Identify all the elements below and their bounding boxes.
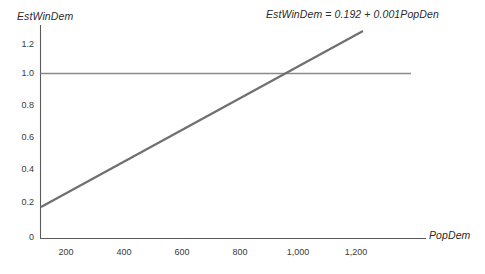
y-tick-label: 0 — [8, 232, 34, 242]
equation-annotation: EstWinDem = 0.192 + 0.001PopDen — [266, 8, 439, 20]
chart-container: EstWinDem PopDem EstWinDem = 0.192 + 0.0… — [0, 0, 485, 274]
y-tick-label: 1.0 — [8, 68, 34, 78]
x-tick-label: 800 — [220, 247, 260, 257]
y-tick-label: 0.4 — [8, 164, 34, 174]
regression-line — [41, 31, 363, 207]
plot-area — [0, 0, 485, 274]
x-tick-label: 200 — [46, 247, 86, 257]
x-tick-label: 600 — [162, 247, 202, 257]
y-axis-title: EstWinDem — [17, 10, 73, 22]
x-axis-title: PopDem — [429, 229, 470, 241]
y-tick-label: 0.8 — [8, 100, 34, 110]
x-tick-label: 400 — [104, 247, 144, 257]
x-tick-label: 1,000 — [278, 247, 318, 257]
y-tick-label: 0.6 — [8, 132, 34, 142]
y-tick-label: 1.2 — [8, 39, 34, 49]
x-tick-label: 1,200 — [336, 247, 376, 257]
y-tick-label: 0.2 — [8, 197, 34, 207]
